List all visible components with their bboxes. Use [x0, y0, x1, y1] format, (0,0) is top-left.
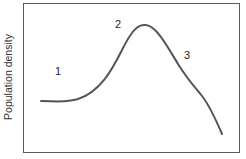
annotation-3: 3: [184, 49, 190, 61]
population-curve: [0, 0, 246, 159]
annotation-2: 2: [115, 18, 121, 30]
annotation-1: 1: [55, 65, 61, 77]
